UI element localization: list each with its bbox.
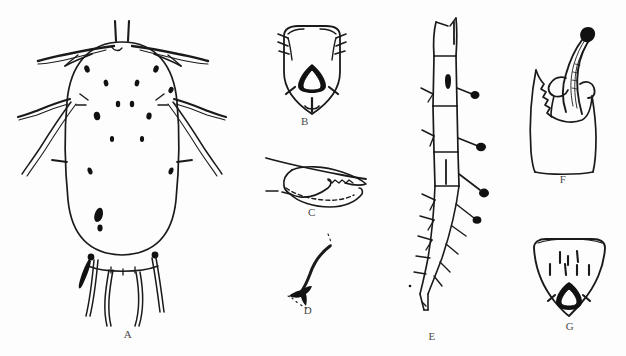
panel-e-drawing bbox=[408, 14, 498, 324]
panel-e-antenna-segmented: E bbox=[408, 14, 498, 324]
panel-b-anal-plate-and-genital-plate: B bbox=[268, 20, 358, 130]
panel-c-mandible-stylet-structure: C bbox=[262, 148, 372, 218]
panel-label-d: D bbox=[298, 304, 318, 316]
panel-f-siphunculus-lateral: F bbox=[518, 18, 618, 178]
panel-d-dorsal-seta-with-basal-socket: D bbox=[286, 232, 356, 317]
panel-label-b: B bbox=[295, 115, 315, 127]
panel-b-drawing bbox=[268, 20, 358, 130]
panel-a-whole-body-dorsal-habitus: A bbox=[10, 4, 235, 334]
left-marginal-process bbox=[79, 259, 91, 288]
panel-d-drawing bbox=[286, 232, 356, 317]
basal-socket bbox=[289, 286, 312, 306]
panel-label-a: A bbox=[118, 328, 138, 340]
dorsal-sclerites bbox=[83, 65, 174, 232]
panel-label-e: E bbox=[422, 330, 442, 342]
figure-plate: A B bbox=[0, 0, 626, 356]
right-siphunculus bbox=[152, 252, 159, 259]
panel-f-drawing bbox=[518, 18, 618, 178]
left-siphunculus bbox=[88, 254, 95, 261]
panel-a-drawing bbox=[10, 4, 235, 334]
panel-label-f: F bbox=[553, 173, 573, 185]
panel-g-drawing bbox=[520, 232, 620, 332]
panel-label-c: C bbox=[302, 206, 322, 218]
panel-label-g: G bbox=[560, 320, 580, 332]
panel-g-anal-plate-triangular: G bbox=[520, 232, 620, 332]
siphunculus-apex bbox=[580, 27, 595, 42]
